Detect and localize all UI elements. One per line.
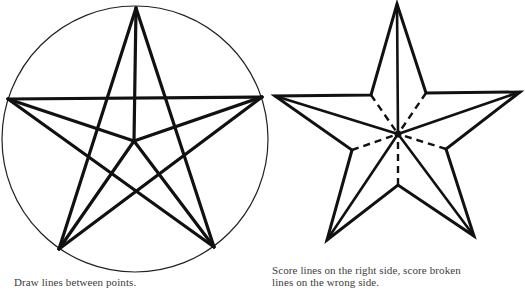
pentagram-line — [134, 141, 214, 247]
pentagram-line — [59, 97, 262, 249]
pentagram-line — [134, 97, 262, 141]
pentagram-line — [134, 8, 136, 141]
center-point — [395, 131, 402, 138]
pentagram-in-circle-figure — [2, 6, 268, 272]
scored-star-figure — [275, 4, 520, 240]
solid-score-line — [398, 134, 474, 236]
pentagram-line — [59, 141, 134, 249]
pentagram-caption: Draw lines between points. — [14, 276, 136, 288]
solid-score-line — [397, 4, 398, 134]
solid-score-line — [327, 134, 398, 240]
scored-star-caption: Score lines on the right side, score bro… — [272, 264, 522, 288]
star-diagrams — [0, 0, 525, 293]
solid-score-line — [398, 92, 520, 134]
pentagram-line — [8, 99, 134, 141]
scored-star-caption-line-1: Score lines on the right side, score bro… — [272, 264, 522, 276]
solid-score-line — [275, 96, 398, 134]
scored-star-caption-line-2: lines on the wrong side. — [272, 276, 522, 288]
